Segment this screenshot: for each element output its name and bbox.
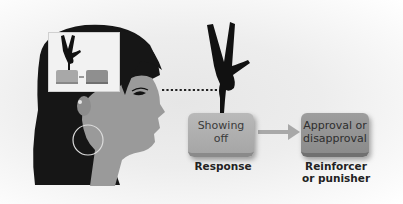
thought-bubble (48, 32, 120, 92)
reinforcer-box-line2: disapproval (301, 132, 369, 145)
response-box-line2: off (188, 132, 254, 145)
reinforcer-box: Approval or disapproval (301, 113, 369, 157)
mini-handstand-icon (49, 33, 119, 91)
handstand-figure-icon (207, 22, 250, 113)
response-box-line1: Showing (188, 119, 254, 132)
reinforcer-label-line1: Reinforcer (296, 160, 376, 172)
reinforcer-box-line1: Approval or (301, 119, 369, 132)
response-box: Showing off (188, 113, 254, 157)
response-label: Response (188, 160, 258, 172)
operant-conditioning-diagram: Showing off Approval or disapproval Resp… (0, 0, 403, 204)
reinforcer-label-line2: or punisher (296, 172, 376, 184)
reinforcer-label: Reinforcer or punisher (296, 160, 376, 184)
arrow-right-icon (258, 130, 290, 134)
